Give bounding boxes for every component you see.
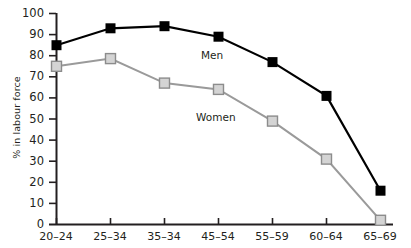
- women-point-1: [106, 54, 116, 64]
- labour-force-line-chart: % in labour force 100 90 80 70 60 50 40 …: [0, 0, 411, 248]
- men-point-6: [376, 186, 386, 196]
- women-markers: [52, 54, 386, 226]
- women-point-3: [214, 84, 224, 94]
- men-point-3: [214, 32, 224, 42]
- men-point-2: [160, 21, 170, 31]
- men-point-4: [268, 57, 278, 67]
- chart-plot-area: [0, 0, 411, 248]
- axes: [49, 13, 393, 225]
- series-women: [52, 54, 386, 226]
- women-line: [57, 59, 381, 221]
- women-point-6: [376, 215, 386, 225]
- men-point-0: [52, 40, 62, 50]
- men-point-1: [106, 23, 116, 33]
- men-point-5: [322, 91, 332, 101]
- women-point-5: [322, 154, 332, 164]
- women-point-2: [160, 78, 170, 88]
- women-point-4: [268, 116, 278, 126]
- women-point-0: [52, 61, 62, 71]
